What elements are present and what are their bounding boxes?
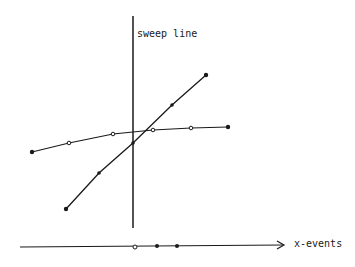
endpoint-dot — [226, 125, 230, 129]
open-point — [151, 128, 155, 132]
event-dot — [155, 244, 159, 248]
endpoint-dot — [30, 150, 34, 154]
event-open — [133, 245, 137, 249]
event-dot — [175, 244, 179, 248]
point-dot — [131, 141, 135, 145]
point-dot — [97, 171, 101, 175]
open-point — [67, 141, 71, 145]
sweep-line-diagram — [0, 0, 355, 267]
x-events-label: x-events — [294, 238, 342, 249]
sweep-line-label: sweep line — [137, 28, 197, 39]
steep-segment — [66, 75, 206, 209]
endpoint-dot — [64, 207, 68, 211]
shallow-segment — [32, 127, 228, 152]
endpoint-dot — [204, 73, 208, 77]
point-dot — [170, 103, 174, 107]
open-point — [111, 132, 115, 136]
event-axis — [20, 245, 283, 247]
open-point — [189, 126, 193, 130]
